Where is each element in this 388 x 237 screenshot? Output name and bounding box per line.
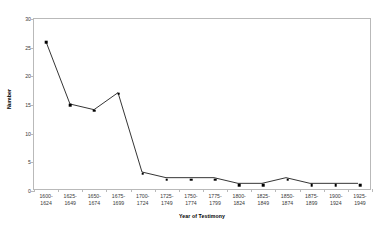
x-tick-mark [300, 189, 301, 192]
y-tick-label: 30 [3, 16, 31, 22]
y-tick-mark [31, 76, 34, 77]
x-tick-mark [155, 189, 156, 192]
y-axis-title: Number [6, 76, 12, 122]
chart-figure: Number 0510152025301600-16241625-1649165… [0, 0, 388, 237]
x-tick-mark [106, 189, 107, 192]
y-tick-mark [31, 162, 34, 163]
plot-area: 0510152025301600-16241625-16491650-16741… [33, 18, 371, 190]
plot-inner: 0510152025301600-16241625-16491650-16741… [34, 19, 370, 189]
data-point-marker [165, 178, 168, 181]
y-tick-label: 15 [3, 102, 31, 108]
data-point-marker [117, 92, 120, 95]
y-tick-label: 20 [3, 73, 31, 79]
data-point-marker [286, 178, 289, 181]
x-tick-mark [34, 189, 35, 192]
x-tick-mark [251, 189, 252, 192]
x-tick-mark [348, 189, 349, 192]
data-point-marker [69, 104, 72, 107]
y-tick-mark [31, 48, 34, 49]
series-markers [34, 19, 370, 189]
data-point-marker [45, 41, 48, 44]
data-point-marker [214, 178, 217, 181]
x-tick-mark [275, 189, 276, 192]
x-axis-title: Year of Testimony [33, 213, 371, 219]
y-tick-mark [31, 134, 34, 135]
x-tick-mark [227, 189, 228, 192]
data-point-marker [334, 184, 337, 187]
data-point-marker [310, 184, 313, 187]
y-tick-mark [31, 19, 34, 20]
x-tick-mark [324, 189, 325, 192]
x-tick-mark [372, 189, 373, 192]
x-tick-label-bottom: 1949 [354, 200, 366, 206]
x-tick-mark [131, 189, 132, 192]
x-tick-mark [203, 189, 204, 192]
data-point-marker [359, 184, 362, 187]
x-tick-mark [58, 189, 59, 192]
data-point-marker [238, 184, 241, 187]
y-tick-label: 5 [3, 159, 31, 165]
data-point-marker [262, 184, 265, 187]
data-point-marker [141, 173, 144, 176]
y-tick-label: 10 [3, 131, 31, 137]
data-point-marker [190, 178, 193, 181]
y-tick-label: 25 [3, 45, 31, 51]
x-tick-label-top: 1925- [353, 193, 366, 199]
y-tick-mark [31, 105, 34, 106]
data-point-marker [93, 109, 96, 112]
x-tick-mark [82, 189, 83, 192]
x-tick-label: 1925-1949 [337, 193, 383, 207]
x-tick-mark [179, 189, 180, 192]
